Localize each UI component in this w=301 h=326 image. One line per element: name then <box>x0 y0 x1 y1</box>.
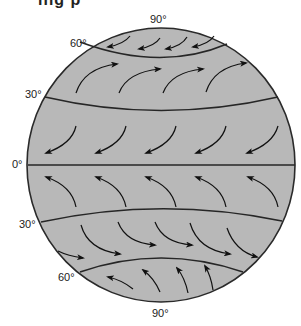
label-south-30: 30° <box>19 218 36 230</box>
label-south-60: 60° <box>58 271 75 283</box>
label-south-pole: 90° <box>152 307 169 319</box>
label-north-60: 60° <box>70 37 87 49</box>
label-equator: 0° <box>12 158 23 170</box>
label-north-pole: 90° <box>150 13 167 25</box>
wind-belts-diagram: ing p 90°60°30°0°30°60°90° <box>0 0 301 326</box>
label-north-30: 30° <box>25 88 42 100</box>
globe-svg <box>0 0 301 326</box>
